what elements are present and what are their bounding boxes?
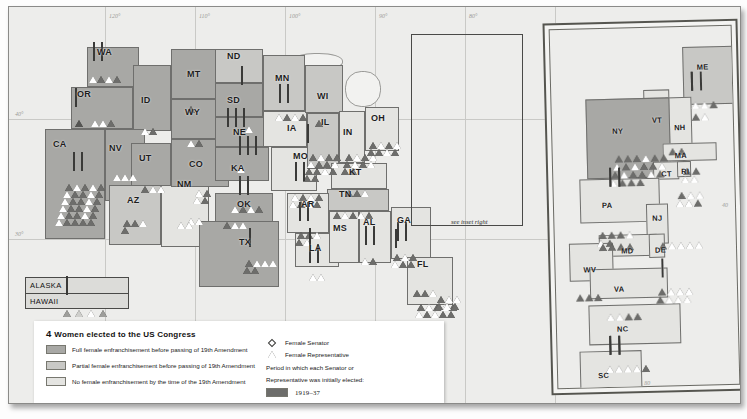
state-label-ut: UT xyxy=(139,153,152,163)
triangle-icon xyxy=(313,215,321,233)
triangle-icon xyxy=(309,257,317,275)
triangle-icon xyxy=(245,109,253,127)
state-label-fl: FL xyxy=(417,259,429,269)
triangle-icon xyxy=(598,227,606,245)
triangle-icon xyxy=(185,205,193,223)
triangle-icon xyxy=(633,296,641,314)
triangle-icon xyxy=(576,278,584,296)
screenshot-root: 120°110°100°90°80°40°30° WAORIDMTWYCANVU… xyxy=(0,0,747,419)
triangle-icon xyxy=(361,241,369,259)
state-label-ga: GA xyxy=(397,215,411,225)
triangle-icon xyxy=(291,97,299,115)
triangle-icon xyxy=(423,294,431,312)
inset-state-label-ma: MA xyxy=(675,151,687,160)
triangle-icon xyxy=(700,96,708,114)
triangle-icon xyxy=(627,162,635,180)
shading-swatch-0 xyxy=(46,345,66,354)
triangle-icon xyxy=(614,349,622,367)
inset-state-label-nc: NC xyxy=(617,324,629,333)
inset-longitude-label: 80 xyxy=(644,380,650,386)
triangle-icon xyxy=(311,158,319,176)
triangle-icon xyxy=(586,381,594,389)
inset-state-label-va: VA xyxy=(614,285,625,294)
triangle-icon xyxy=(616,226,624,244)
triangle-icon xyxy=(658,225,666,243)
triangle-icon xyxy=(107,103,115,121)
triangle-icon xyxy=(139,203,147,221)
triangle-icon xyxy=(375,132,383,150)
triangle-icon xyxy=(675,183,683,201)
inset-state-label-ri: RI xyxy=(681,167,689,176)
triangle-icon xyxy=(113,59,121,77)
triangle-icon xyxy=(632,348,640,366)
diamond-icon xyxy=(241,67,243,85)
triangle-icon xyxy=(594,277,602,295)
triangle-icon xyxy=(105,59,113,77)
state-label-ok: OK xyxy=(237,199,251,209)
triangle-icon xyxy=(129,157,137,175)
triangle-icon xyxy=(329,151,337,169)
triangle-icon xyxy=(131,203,139,221)
longitude-label: 90° xyxy=(379,13,387,19)
state-label-mn: MN xyxy=(275,73,290,83)
triangle-icon xyxy=(656,280,664,298)
diamond-icon xyxy=(255,137,257,155)
longitude-label: 100° xyxy=(289,13,300,19)
triangle-icon xyxy=(63,293,71,311)
triangle-icon xyxy=(624,296,632,314)
triangle-icon xyxy=(75,293,83,311)
triangle-icon xyxy=(605,349,613,367)
longitude-label: 120° xyxy=(109,13,120,19)
state-label-nm: NM xyxy=(177,179,192,189)
legend-representative-label: Female Representative xyxy=(285,351,349,358)
state-label-al: AL xyxy=(363,217,376,227)
inset-callout-box xyxy=(411,34,523,226)
triangle-icon xyxy=(613,381,621,390)
state-label-ka: KA xyxy=(231,163,245,173)
triangle-icon xyxy=(299,97,307,115)
triangle-icon xyxy=(359,144,367,162)
triangle-icon xyxy=(121,210,129,228)
northeast-inset-inner: MEVTNHNYMACTRIPANJMDDEWVVANCSC 40 80 xyxy=(549,25,741,389)
inset-state-label-nh: NH xyxy=(674,123,686,132)
state-label-nd: ND xyxy=(227,51,241,61)
latitude-label: 40° xyxy=(15,111,23,117)
triangle-icon xyxy=(585,277,593,295)
triangle-icon xyxy=(636,162,644,180)
triangle-icon xyxy=(683,279,691,297)
legend-title-text: Women elected to the US Congress xyxy=(54,330,195,339)
triangle-icon xyxy=(317,257,325,275)
state-label-tn: TN xyxy=(339,189,352,199)
diamond-icon xyxy=(227,109,229,127)
lake-huron-erie xyxy=(345,71,381,107)
diamond-icon xyxy=(609,169,611,187)
triangle-icon xyxy=(255,189,263,207)
triangle-icon xyxy=(99,293,107,311)
period-note-line-1: Period in which each Senator or xyxy=(266,363,364,373)
state-label-az: AZ xyxy=(127,195,140,205)
triangle-icon xyxy=(357,195,365,213)
triangle-icon xyxy=(141,169,149,187)
state-label-ms: MS xyxy=(333,223,347,233)
triangle-icon xyxy=(694,225,702,243)
map-frame: 120°110°100°90°80°40°30° WAORIDMTWYCANVU… xyxy=(8,6,741,404)
triangle-icon xyxy=(266,351,278,358)
triangle-icon xyxy=(415,294,423,312)
triangle-icon xyxy=(63,202,71,220)
triangle-icon xyxy=(177,205,185,223)
state-label-id: ID xyxy=(141,95,151,105)
triangle-icon xyxy=(295,222,303,240)
triangle-icon xyxy=(193,180,201,198)
triangle-icon xyxy=(365,195,373,213)
legend-representative-row: Female Representative xyxy=(266,351,364,358)
legend-senator-row: Female Senator xyxy=(266,339,364,346)
inset-state-labels-layer: MEVTNHNYMACTRIPANJMDDEWVVANCSC xyxy=(550,26,731,30)
triangle-icon xyxy=(667,225,675,243)
triangle-icon xyxy=(87,202,95,220)
inset-state-label-pa: PA xyxy=(602,201,613,210)
legend-period-first-row: 1919–37 xyxy=(266,388,364,397)
triangle-icon xyxy=(399,244,407,262)
shading-label-0: Full female enfranchisement before passi… xyxy=(72,346,247,353)
map-legend: 4 Women elected to the US Congress Full … xyxy=(34,321,444,403)
triangle-icon xyxy=(665,279,673,297)
